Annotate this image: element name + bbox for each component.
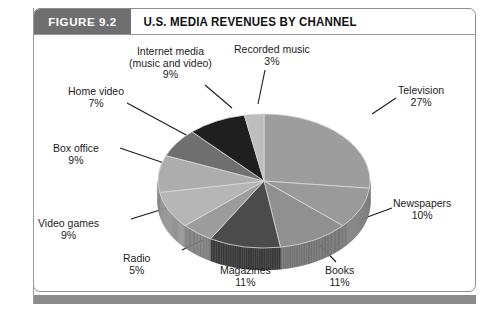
pie-label-value: 9% <box>53 155 99 167</box>
leader-line <box>205 85 232 108</box>
pie-slice-side <box>304 243 306 265</box>
pie-label-radio: Radio5% <box>123 253 150 276</box>
pie-slice-side <box>299 244 301 266</box>
pie-slice-side <box>317 238 319 261</box>
leader-line <box>372 98 396 114</box>
pie-slice-side <box>206 237 208 260</box>
pie-label-television: Television27% <box>398 85 444 108</box>
pie-label-box-office: Box office9% <box>53 143 99 166</box>
pie-slice-side <box>332 231 333 254</box>
pie-label-name: Internet media <box>129 46 212 58</box>
leader-line <box>127 103 188 136</box>
pie-slice-side <box>323 236 325 259</box>
pie-slice-side <box>271 248 273 270</box>
pie-label-name: Books <box>325 265 354 277</box>
pie-slice-side <box>222 243 224 265</box>
pie-slice-side <box>283 247 285 269</box>
pie-slice-side <box>293 245 295 267</box>
pie-slice-side <box>221 242 223 264</box>
pie-label-value: 3% <box>234 56 310 68</box>
leader-line <box>120 148 164 163</box>
pie-slice-side <box>193 231 194 254</box>
pie-label-name: Magazines <box>220 265 271 277</box>
pie-slice-side <box>217 241 219 264</box>
pie-chart: Television27%Newspapers10%Books11%Magazi… <box>0 0 484 317</box>
pie-slice-side <box>277 247 279 269</box>
pie-label-value: 11% <box>220 277 271 289</box>
pie-label-name: Television <box>398 85 444 97</box>
pie-slice-side <box>316 239 318 262</box>
pie-slice-side <box>312 240 314 263</box>
figure-container: FIGURE 9.2 U.S. MEDIA REVENUES BY CHANNE… <box>0 0 484 317</box>
pie-slice-side <box>336 229 337 252</box>
pie-slice-side <box>194 231 195 254</box>
pie-slice-side <box>329 233 330 256</box>
pie-label-books: Books11% <box>325 265 354 288</box>
pie-slice-side <box>207 238 209 261</box>
pie-slice-side <box>325 235 327 258</box>
pie-label-recorded-music: Recorded music3% <box>234 44 310 67</box>
pie-slices-group <box>158 114 370 248</box>
pie-label-value: 11% <box>325 277 354 289</box>
pie-label-magazines: Magazines11% <box>220 265 271 288</box>
pie-slice-side <box>201 235 203 258</box>
pie-label-video-games: Video games9% <box>38 218 99 241</box>
pie-slice-side <box>211 239 213 262</box>
pie-slice-side <box>306 242 308 264</box>
pie-slice-side <box>292 245 294 267</box>
pie-slice-side <box>307 242 309 264</box>
pie-slice-side <box>284 247 286 269</box>
pie-slice-television <box>264 114 370 188</box>
pie-slice-side <box>295 245 297 267</box>
pie-slice-side <box>195 232 196 255</box>
pie-slice-side <box>203 236 205 259</box>
pie-label-name: Radio <box>123 253 150 265</box>
pie-slice-side <box>214 240 216 263</box>
pie-label-value: 27% <box>398 97 444 109</box>
pie-slice-side <box>322 236 324 259</box>
pie-label-home-video: Home video7% <box>68 86 124 109</box>
pie-label-name: Recorded music <box>234 44 310 56</box>
pie-slice-side <box>198 234 199 257</box>
pie-slice-side <box>297 244 299 266</box>
pie-label-value: 5% <box>123 265 150 277</box>
pie-slice-side <box>320 237 322 260</box>
pie-slice-side <box>191 230 192 253</box>
pie-slice-side <box>331 232 332 255</box>
pie-slice-side <box>302 243 304 265</box>
pie-slice-side <box>275 248 277 270</box>
pie-slice-side <box>314 240 316 263</box>
pie-slice-side <box>212 240 214 263</box>
pie-slice-side <box>300 243 302 265</box>
pie-slice-side <box>290 246 292 268</box>
pie-slice-side <box>224 243 226 265</box>
pie-slice-side <box>204 236 206 259</box>
pie-label-name: Box office <box>53 143 99 155</box>
pie-slice-side <box>228 244 230 266</box>
pie-slice-side <box>288 246 290 268</box>
pie-label-value: 9% <box>38 230 99 242</box>
pie-slice-side <box>200 234 201 257</box>
pie-label-name: Video games <box>38 218 99 230</box>
pie-label-value: 7% <box>68 98 124 110</box>
pie-slice-side <box>209 238 211 261</box>
pie-slice-side <box>226 244 228 266</box>
pie-label-value: 9% <box>129 69 212 81</box>
pie-label-value: 10% <box>393 210 451 222</box>
pie-slice-side <box>281 247 283 269</box>
leader-line <box>258 70 265 104</box>
pie-slice-side <box>328 234 329 257</box>
pie-slice-side <box>219 242 221 264</box>
pie-slice-side <box>334 231 335 254</box>
pie-label-newspapers: Newspapers10% <box>393 198 451 221</box>
pie-slice-side <box>335 230 336 253</box>
pie-slice-side <box>311 241 313 264</box>
pie-slice-side <box>286 246 288 268</box>
pie-slice-side <box>319 238 321 261</box>
pie-slice-side <box>273 248 275 270</box>
pie-slice-side <box>279 247 281 269</box>
pie-slice-side <box>309 241 311 264</box>
figure-footer-bar <box>34 295 476 304</box>
pie-slice-side <box>197 233 198 256</box>
pie-label-internet-media-music-and-video: Internet media(music and video)9% <box>129 46 212 81</box>
